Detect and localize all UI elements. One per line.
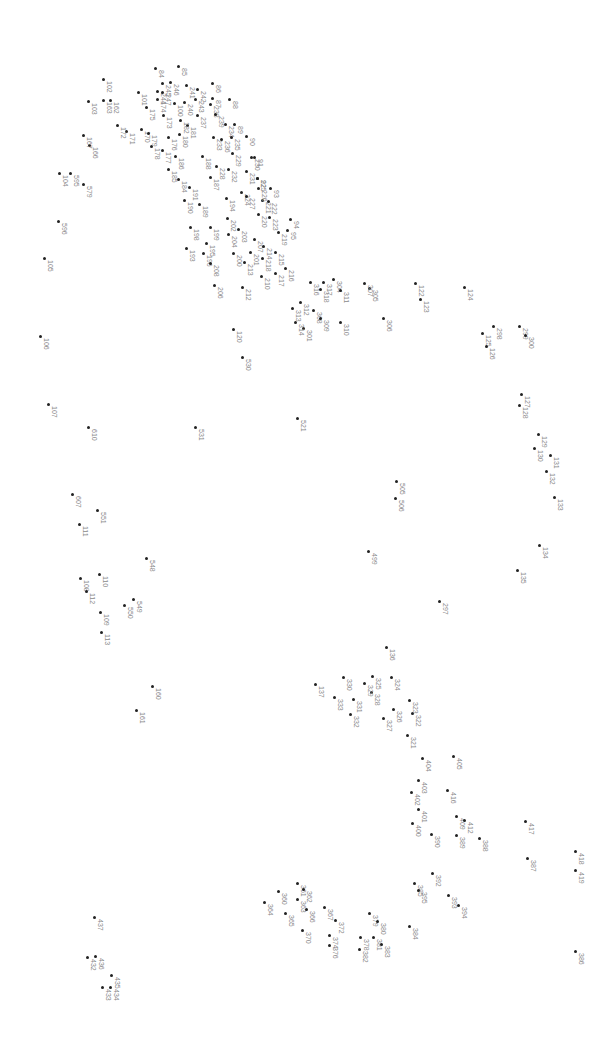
- puzzle-dot: [518, 325, 521, 328]
- dot-number-label: 130: [537, 450, 544, 462]
- puzzle-dot: [368, 912, 371, 915]
- dot-number-label: 111: [82, 526, 89, 537]
- puzzle-dot: [349, 713, 352, 716]
- puzzle-dot: [537, 433, 540, 436]
- dot-number-label: 395: [421, 892, 428, 904]
- dot-number-label: 100: [177, 105, 184, 117]
- puzzle-dot: [47, 403, 50, 406]
- puzzle-dot: [241, 286, 244, 289]
- puzzle-dot: [286, 229, 289, 232]
- puzzle-dot: [524, 334, 527, 337]
- dot-number-label: 412: [467, 822, 474, 834]
- puzzle-dot: [319, 317, 322, 320]
- puzzle-dot: [481, 332, 484, 335]
- puzzle-dot: [214, 113, 217, 116]
- puzzle-dot: [198, 203, 201, 206]
- dot-number-label: 201: [253, 254, 260, 266]
- dot-number-label: 301: [306, 330, 313, 342]
- dot-number-label: 549: [136, 601, 143, 613]
- puzzle-dot: [301, 929, 304, 932]
- puzzle-dot: [257, 187, 260, 190]
- dot-number-label: 136: [389, 649, 396, 661]
- puzzle-dot: [228, 98, 231, 101]
- puzzle-dot: [209, 103, 212, 106]
- puzzle-dot: [296, 882, 299, 885]
- dot-number-label: 386: [578, 953, 585, 965]
- puzzle-dot: [260, 275, 263, 278]
- dot-number-label: 416: [450, 792, 457, 804]
- puzzle-dot: [322, 281, 325, 284]
- puzzle-dot: [274, 272, 277, 275]
- dot-number-label: 166: [92, 147, 99, 159]
- puzzle-dot: [277, 890, 280, 893]
- puzzle-dot: [274, 251, 277, 254]
- puzzle-dot: [411, 822, 414, 825]
- puzzle-dot: [39, 335, 42, 338]
- puzzle-dot: [339, 289, 342, 292]
- puzzle-dot: [380, 943, 383, 946]
- dot-number-label: 187: [213, 179, 220, 191]
- dot-number-label: 402: [414, 794, 421, 806]
- dot-number-label: 210: [264, 278, 271, 290]
- dot-number-label: 206: [217, 287, 224, 299]
- puzzle-dot: [574, 869, 577, 872]
- dot-number-label: 134: [542, 547, 549, 559]
- puzzle-dot: [408, 699, 411, 702]
- dot-number-label: 365: [288, 915, 295, 927]
- puzzle-dot: [109, 986, 112, 989]
- dot-number-label: 105: [47, 260, 54, 272]
- puzzle-dot: [178, 133, 181, 136]
- puzzle-dot: [78, 523, 81, 526]
- dot-number-label: 171: [129, 133, 136, 145]
- dot-number-label: 160: [155, 688, 162, 700]
- puzzle-dot: [209, 226, 212, 229]
- dot-number-label: 306: [386, 320, 393, 332]
- dot-number-label: 530: [245, 359, 252, 371]
- puzzle-dot: [232, 328, 235, 331]
- puzzle-dot: [231, 152, 234, 155]
- puzzle-dot: [82, 183, 85, 186]
- puzzle-dot: [516, 569, 519, 572]
- dot-number-label: 550: [127, 607, 134, 619]
- puzzle-dot: [87, 100, 90, 103]
- puzzle-dot: [553, 496, 556, 499]
- dot-number-label: 162: [113, 102, 120, 114]
- dot-number-label: 310: [343, 324, 350, 336]
- dot-number-label: 218: [265, 260, 272, 272]
- puzzle-dot: [237, 228, 240, 231]
- dot-number-label: 230: [254, 159, 261, 171]
- puzzle-dot: [79, 577, 82, 580]
- puzzle-dot: [145, 557, 148, 560]
- dot-number-label: 331: [356, 701, 363, 713]
- puzzle-dot: [358, 948, 361, 951]
- dot-number-label: 383: [384, 946, 391, 958]
- puzzle-dot: [194, 98, 197, 101]
- dot-number-label: 389: [459, 837, 466, 849]
- dot-number-label: 435: [114, 977, 121, 989]
- puzzle-dot: [367, 550, 370, 553]
- puzzle-dot: [241, 356, 244, 359]
- puzzle-dot: [485, 345, 488, 348]
- dot-number-label: 548: [149, 560, 156, 572]
- dot-number-label: 191: [192, 189, 199, 201]
- puzzle-dot: [209, 176, 212, 179]
- dot-number-label: 184: [181, 181, 188, 193]
- dot-number-label: 181: [190, 127, 197, 139]
- dot-number-label: 434: [113, 989, 120, 1001]
- puzzle-dot: [161, 149, 164, 152]
- puzzle-dot: [137, 91, 140, 94]
- puzzle-dot: [245, 195, 248, 198]
- puzzle-dot: [277, 231, 280, 234]
- dot-number-label: 217: [278, 275, 285, 287]
- puzzle-dot: [492, 325, 495, 328]
- puzzle-dot: [185, 247, 188, 250]
- dot-number-label: 129: [541, 436, 548, 448]
- puzzle-dot: [294, 321, 297, 324]
- puzzle-dot: [240, 191, 243, 194]
- dot-number-label: 506: [398, 500, 405, 512]
- puzzle-dot: [102, 78, 105, 81]
- dot-number-label: 300: [528, 337, 535, 349]
- dot-number-label: 194: [229, 200, 236, 212]
- dot-number-label: 101: [141, 94, 148, 106]
- dot-number-label: 231: [249, 173, 256, 185]
